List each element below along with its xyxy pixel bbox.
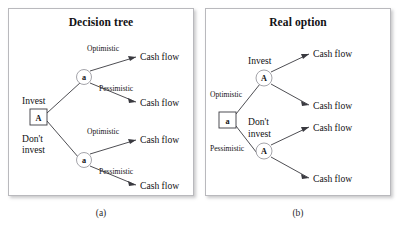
real-option-diagram: a Optimistic Pessimistic A A Invest Don'… <box>206 9 392 197</box>
leaf-cash-flow-3: Cash flow <box>313 122 352 133</box>
edge-invest <box>47 82 81 113</box>
label-invest-2: invest <box>22 144 45 155</box>
edge-optimistic-bottom <box>90 140 136 154</box>
label-invest: Invest <box>22 95 46 106</box>
label-dont: Don't <box>22 133 43 144</box>
label-pessimistic-bottom: Pessimistic <box>99 167 134 176</box>
label-invest-top: Invest <box>248 55 272 66</box>
decision-tree-diagram: A Invest Don't invest a a Optimistic Pes… <box>9 9 195 197</box>
leaf-cash-flow-4: Cash flow <box>140 180 179 191</box>
node-root-letter: A <box>36 114 42 123</box>
edge-dont-invest-top <box>271 84 309 105</box>
node-option-bottom-letter: A <box>261 147 267 156</box>
arrowhead-invest-top <box>301 54 309 59</box>
label-optimistic-top: Optimistic <box>87 44 120 53</box>
panel-real-option: Real option a Optimistic Pessimistic A <box>205 8 391 196</box>
caption-b: (b) <box>268 208 328 218</box>
edge-optimistic-top <box>90 57 136 71</box>
arrowhead-pessimistic-bottom <box>128 181 136 186</box>
arrowhead-pessimistic-top <box>128 98 136 103</box>
leaf-cash-flow-2: Cash flow <box>140 97 179 108</box>
node-chance-top-letter: a <box>82 73 86 82</box>
panel-decision-tree: Decision tree A Invest Don't invest <box>8 8 194 196</box>
node-chance-bottom-letter: a <box>82 156 86 165</box>
leaf-cash-flow-2: Cash flow <box>313 100 352 111</box>
leaf-cash-flow-3: Cash flow <box>140 134 179 145</box>
node-option-top-letter: A <box>261 74 267 83</box>
label-optimistic: Optimistic <box>210 90 243 99</box>
label-pessimistic: Pessimistic <box>210 144 245 153</box>
edge-dont-invest-bottom <box>271 157 309 178</box>
arrowhead-optimistic-bottom <box>128 139 136 144</box>
leaf-cash-flow-4: Cash flow <box>313 173 352 184</box>
label-dont: Don't <box>248 116 269 127</box>
arrowhead-dont-invest-top <box>301 101 309 106</box>
edge-dont-invest <box>47 121 79 158</box>
arrowhead-dont-invest-bottom <box>301 174 309 179</box>
leaf-cash-flow-1: Cash flow <box>140 51 179 62</box>
figure-container: Decision tree A Invest Don't invest <box>0 0 402 228</box>
arrowhead-invest-bottom <box>301 127 309 132</box>
node-root-letter: a <box>225 117 229 126</box>
label-optimistic-bottom: Optimistic <box>87 127 120 136</box>
label-pessimistic-top: Pessimistic <box>99 84 134 93</box>
leaf-cash-flow-1: Cash flow <box>313 48 352 59</box>
caption-a: (a) <box>71 208 131 218</box>
label-invest-bottom: invest <box>248 128 271 139</box>
arrowhead-optimistic-top <box>128 56 136 61</box>
edge-optimistic <box>236 84 260 114</box>
